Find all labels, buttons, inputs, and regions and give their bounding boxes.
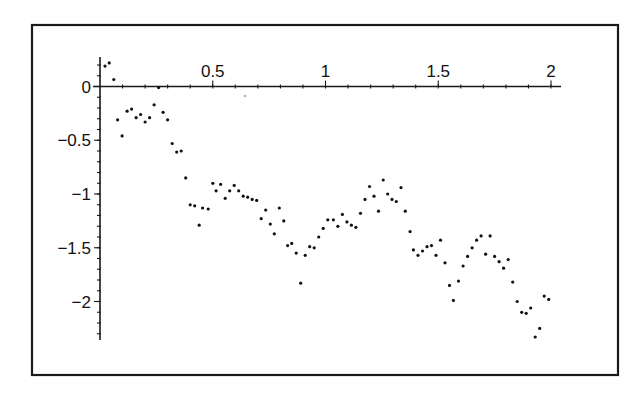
data-point — [372, 195, 375, 198]
data-point — [224, 197, 227, 200]
data-point — [171, 142, 174, 145]
data-point — [350, 224, 353, 227]
data-point — [386, 192, 389, 195]
x-axis-ticks: 0.511.52 — [201, 62, 556, 87]
y-tick-label: −1 — [72, 185, 91, 204]
x-tick-label: 2 — [546, 62, 555, 81]
data-point — [412, 248, 415, 251]
data-point — [135, 116, 138, 119]
data-point — [201, 206, 204, 209]
data-point — [282, 219, 285, 222]
data-point — [332, 218, 335, 221]
data-point — [520, 311, 523, 314]
data-point — [489, 234, 492, 237]
data-point — [404, 210, 407, 213]
data-point — [157, 86, 160, 89]
data-point — [215, 189, 218, 192]
data-point — [543, 295, 546, 298]
data-point — [434, 254, 437, 257]
data-point — [443, 261, 446, 264]
data-point — [251, 198, 254, 201]
data-point — [246, 196, 249, 199]
y-tick-label: 0 — [82, 78, 91, 97]
data-point — [198, 224, 201, 227]
data-point — [390, 198, 393, 201]
data-point — [466, 255, 469, 258]
data-point — [538, 327, 541, 330]
y-tick-label: −0.5 — [57, 131, 91, 150]
data-point — [211, 182, 214, 185]
data-point — [439, 239, 442, 242]
data-point — [121, 134, 124, 137]
data-point — [207, 207, 210, 210]
data-point — [255, 199, 258, 202]
data-point — [452, 299, 455, 302]
data-point — [399, 186, 402, 189]
data-point — [313, 246, 316, 249]
minor-ticks — [97, 65, 551, 334]
data-point — [322, 227, 325, 230]
y-tick-label: −1.5 — [57, 239, 91, 258]
data-point — [534, 335, 537, 338]
data-point — [304, 254, 307, 257]
data-point — [189, 203, 192, 206]
data-point — [480, 234, 483, 237]
data-point — [382, 178, 385, 181]
data-point — [286, 244, 289, 247]
scan-artifact — [244, 95, 247, 98]
data-point — [103, 65, 106, 68]
y-axis-ticks: 0−0.5−1−1.5−2 — [57, 78, 100, 312]
data-point — [180, 149, 183, 152]
data-point — [525, 312, 528, 315]
data-point — [130, 108, 133, 111]
data-point — [184, 176, 187, 179]
data-point — [228, 189, 231, 192]
data-point — [175, 151, 178, 154]
data-point — [193, 204, 196, 207]
data-point — [502, 267, 505, 270]
data-point — [336, 225, 339, 228]
data-point — [326, 218, 329, 221]
data-point — [448, 284, 451, 287]
x-tick-label: 0.5 — [201, 62, 225, 81]
data-point — [471, 246, 474, 249]
data-points — [103, 61, 550, 338]
data-point — [425, 245, 428, 248]
data-point — [354, 226, 357, 229]
data-point — [377, 210, 380, 213]
data-point — [290, 242, 293, 245]
data-point — [237, 189, 240, 192]
data-point — [395, 200, 398, 203]
data-point — [116, 118, 119, 121]
data-point — [345, 220, 348, 223]
data-point — [242, 195, 245, 198]
data-point — [260, 217, 263, 220]
data-point — [139, 113, 142, 116]
data-point — [219, 183, 222, 186]
data-point — [547, 298, 550, 301]
data-point — [363, 198, 366, 201]
data-point — [341, 213, 344, 216]
data-point — [148, 116, 151, 119]
data-point — [430, 244, 433, 247]
data-point — [457, 280, 460, 283]
data-point — [162, 111, 165, 114]
data-point — [462, 264, 465, 267]
data-point — [264, 209, 267, 212]
data-point — [108, 61, 111, 64]
x-tick-label: 1.5 — [426, 62, 450, 81]
data-point — [475, 239, 478, 242]
data-point — [166, 118, 169, 121]
data-point — [126, 110, 129, 113]
data-point — [529, 306, 532, 309]
data-point — [233, 184, 236, 187]
data-point — [317, 235, 320, 238]
x-tick-label: 1 — [321, 62, 330, 81]
data-point — [507, 258, 510, 261]
data-point — [112, 78, 115, 81]
data-point — [493, 255, 496, 258]
y-tick-label: −2 — [72, 293, 91, 312]
data-point — [484, 253, 487, 256]
data-point — [273, 232, 276, 235]
data-point — [278, 206, 281, 209]
